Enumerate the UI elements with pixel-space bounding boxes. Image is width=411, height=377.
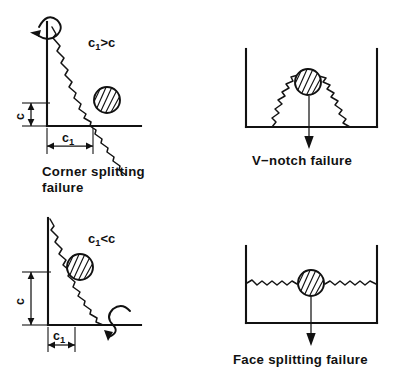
dimension-c1-label: c1 (62, 131, 74, 147)
dimension-c1-label: c1 (53, 329, 65, 345)
anchor-circle (293, 67, 322, 96)
caption-v-notch: V−notch failure (252, 153, 352, 168)
dimension-c-label: c (13, 298, 27, 305)
caption-corner-splitting-line1: Corner splitting (42, 164, 145, 179)
dimension-c-vertical: c (13, 272, 51, 325)
dimension-c-vertical: c (13, 103, 50, 126)
crack-v-right-branch (319, 76, 350, 127)
caption-face-splitting: Face splitting failure (233, 352, 368, 367)
dimension-c1-horizontal: c1 (47, 128, 93, 154)
panel-face-splitting: Face splitting failure (233, 246, 377, 367)
anchor-circle (92, 85, 121, 114)
anchor-circle (296, 268, 325, 297)
moment-arrow-top (30, 17, 61, 39)
dimension-c1-horizontal: c1 (48, 327, 75, 352)
moment-arrow-bottom (104, 306, 130, 341)
load-arrow-down (304, 96, 313, 149)
panel-v-notch: V−notch failure (246, 49, 377, 168)
diagram-canvas: c1>c c (0, 0, 411, 377)
panel-corner-splitting: c1>c c (13, 17, 145, 195)
crack-horizontal-left (247, 280, 297, 285)
condition-label-c1-lt-c: c1<c (88, 231, 115, 248)
failure-modes-figure: c1>c c (0, 0, 411, 377)
panel-corner-splitting-small: c1<c c c1 (13, 218, 141, 352)
crack-horizontal-right (325, 281, 376, 285)
caption-corner-splitting-line2: failure (42, 180, 84, 195)
load-arrow-down (306, 297, 315, 346)
condition-label-c1-gt-c: c1>c (88, 35, 115, 52)
dimension-c-label: c (13, 113, 27, 120)
